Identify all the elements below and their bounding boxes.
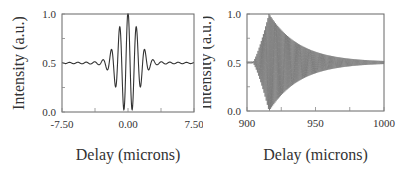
y-axis-label: Intensity (a.u.) (10, 16, 28, 110)
y-axis-label: Intensity (a.u.) (203, 16, 215, 110)
plot-frame (62, 14, 194, 112)
left-chart: 0.00.51.0-7.500.007.50Delay (microns)Int… (0, 0, 203, 170)
y-tick-label: 0.0 (227, 105, 241, 117)
x-tick-label: -7.50 (51, 118, 74, 130)
right-chart: 0.00.51.09009501000Delay (microns)Intens… (203, 0, 406, 170)
x-tick-label: 0.00 (118, 118, 138, 130)
data-line (247, 14, 384, 111)
y-tick-label: 1.0 (42, 8, 56, 20)
y-tick-label: 0.5 (227, 57, 241, 69)
x-axis-label: Delay (microns) (76, 146, 180, 164)
left-chart-svg: 0.00.51.0-7.500.007.50Delay (microns)Int… (0, 0, 203, 170)
x-tick-label: 1000 (373, 117, 396, 129)
y-tick-label: 0.0 (42, 106, 56, 118)
x-axis-label: Delay (microns) (263, 146, 367, 164)
right-chart-svg: 0.00.51.09009501000Delay (microns)Intens… (203, 0, 406, 170)
x-tick-label: 950 (307, 117, 324, 129)
y-tick-label: 1.0 (227, 8, 241, 20)
data-line (62, 14, 194, 110)
x-tick-label: 900 (239, 117, 256, 129)
x-tick-label: 7.50 (184, 118, 203, 130)
y-tick-label: 0.5 (42, 57, 56, 69)
